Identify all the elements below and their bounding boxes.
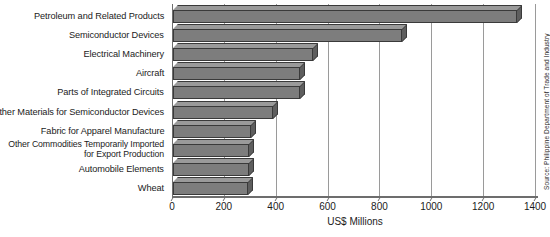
category-label: Aircraft — [136, 68, 164, 78]
bar-front-face — [173, 182, 248, 195]
gridline-1000 — [431, 4, 432, 196]
bar-front-face — [173, 86, 300, 99]
bar-front-face — [173, 48, 313, 61]
category-label: Fabric for Apparel Manufacture — [40, 126, 164, 136]
x-tick-label-800: 800 — [371, 201, 388, 212]
bar-front-face — [173, 10, 517, 23]
category-label: Parts of Integrated Circuits — [58, 87, 164, 97]
bar[interactable] — [173, 67, 300, 80]
x-tick-label-1200: 1200 — [472, 201, 494, 212]
gridline-1200 — [483, 4, 484, 196]
bar-front-face — [173, 144, 249, 157]
category-label: Semiconductor Devices — [69, 30, 164, 40]
x-tick-label-0: 0 — [169, 201, 175, 212]
plot-area — [172, 4, 537, 196]
bar[interactable] — [173, 163, 249, 176]
bar-front-face — [173, 106, 273, 119]
category-label: Electrical Machinery — [83, 49, 164, 59]
category-label: Other Commodities Temporarily Imported f… — [5, 140, 164, 159]
x-tick-label-200: 200 — [216, 201, 233, 212]
x-tick-label-400: 400 — [267, 201, 284, 212]
bar[interactable] — [173, 125, 251, 138]
source-note-text: Source: Philippine Department of Trade a… — [543, 34, 550, 191]
category-label: Petroleum and Related Products — [34, 11, 164, 21]
bar-front-face — [173, 67, 300, 80]
category-label: Wheat — [138, 183, 164, 193]
bar[interactable] — [173, 48, 313, 61]
bar[interactable] — [173, 86, 300, 99]
x-tick-label-1000: 1000 — [420, 201, 442, 212]
bar[interactable] — [173, 10, 517, 23]
bar[interactable] — [173, 144, 249, 157]
bar[interactable] — [173, 29, 402, 42]
category-axis-labels: Petroleum and Related ProductsSemiconduc… — [0, 0, 168, 196]
x-tick-label-1400: 1400 — [524, 201, 546, 212]
category-label: Automobile Elements — [79, 164, 164, 174]
bar[interactable] — [173, 106, 273, 119]
bar-front-face — [173, 29, 402, 42]
x-axis-title: US$ Millions — [172, 216, 538, 227]
bar-front-face — [173, 125, 251, 138]
bar-front-face — [173, 163, 249, 176]
category-label: Other Materials for Semiconductor Device… — [0, 107, 164, 117]
x-tick-label-600: 600 — [319, 201, 336, 212]
bar[interactable] — [173, 182, 248, 195]
